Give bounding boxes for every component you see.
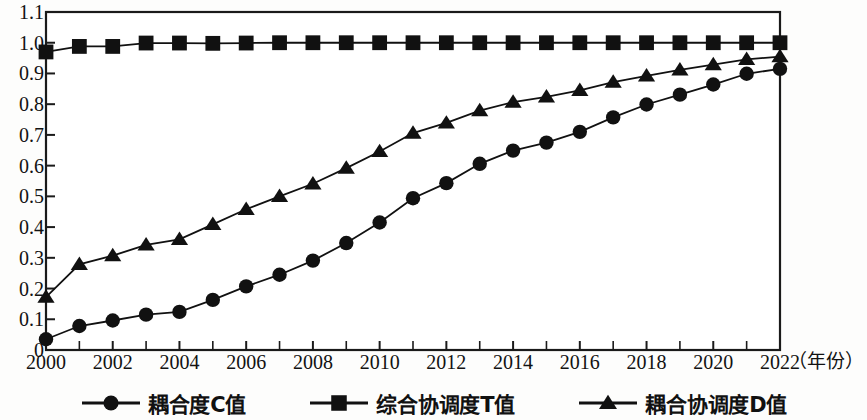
legend-item-label: 综合协调度T值 (376, 388, 515, 418)
x-axis-tick-label: 2008 (293, 352, 333, 372)
data-point-square (331, 395, 347, 411)
x-axis-unit-label: （年份） (788, 352, 864, 371)
x-axis-tick-label: 2002 (93, 352, 133, 372)
x-axis-tick-label: 2006 (226, 352, 266, 372)
x-axis-tick-label: 2010 (360, 352, 400, 372)
chart-figure: 00.10.20.30.40.50.60.70.80.91.01.1 20002… (0, 0, 867, 420)
x-axis-tick-label: 2014 (493, 352, 533, 372)
legend-marker-triangle (577, 391, 639, 415)
legend-item: 综合协调度T值 (308, 388, 515, 418)
x-axis-tick-labels: 2000200220042006200820102012201420162018… (0, 0, 867, 420)
x-axis-tick-label: 2012 (426, 352, 466, 372)
legend-marker-square (308, 391, 370, 415)
legend-item-label: 耦合协调度D值 (645, 388, 787, 418)
data-point-circle (103, 395, 118, 410)
x-axis-tick-label: 2018 (627, 352, 667, 372)
x-axis-tick-label: 2004 (159, 352, 199, 372)
x-axis-tick-label: 2000 (26, 352, 66, 372)
chart-legend: 耦合度C值综合协调度T值耦合协调度D值 (0, 386, 867, 420)
x-axis-tick-label: 2020 (693, 352, 733, 372)
legend-marker-circle (80, 391, 142, 415)
x-axis-tick-label: 2016 (560, 352, 600, 372)
legend-item-label: 耦合度C值 (148, 388, 246, 418)
legend-item: 耦合度C值 (80, 388, 246, 418)
legend-item: 耦合协调度D值 (577, 388, 787, 418)
